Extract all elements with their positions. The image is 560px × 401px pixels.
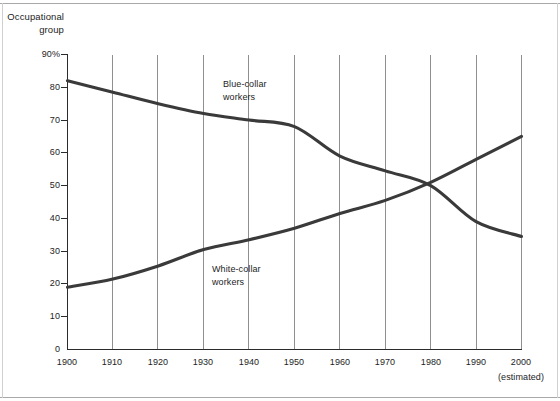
x-tick-label-1960: 1960 xyxy=(318,357,362,367)
annotation-white-collar: White-collar workers xyxy=(212,263,261,289)
x-tick-label-1990: 1990 xyxy=(454,357,498,367)
x-tick-label-1910: 1910 xyxy=(90,357,134,367)
annotation-white-collar-line2: workers xyxy=(212,276,261,289)
chart-plot-area xyxy=(0,0,560,401)
annotation-blue-collar-line1: Blue-collar xyxy=(223,78,267,91)
x-tick-label-1900: 1900 xyxy=(45,357,89,367)
annotation-white-collar-line1: White-collar xyxy=(212,263,261,276)
x-tick-label-1970: 1970 xyxy=(363,357,407,367)
annotation-blue-collar-line2: workers xyxy=(223,91,267,104)
x-tick-label-1940: 1940 xyxy=(227,357,271,367)
x-tick-label-1920: 1920 xyxy=(136,357,180,367)
y-axis-ticks xyxy=(61,55,67,317)
x-tick-label-1950: 1950 xyxy=(272,357,316,367)
x-tick-label-1980: 1980 xyxy=(409,357,453,367)
annotation-blue-collar: Blue-collar workers xyxy=(223,78,267,104)
gridlines xyxy=(113,55,522,349)
chart-page: Occupational group 90% 80 70 60 50 40 30… xyxy=(0,0,560,401)
x-tick-label-2000: 2000 xyxy=(499,357,543,367)
x-tick-label-1930: 1930 xyxy=(181,357,225,367)
x-axis-note-estimated: (estimated) xyxy=(488,372,554,382)
